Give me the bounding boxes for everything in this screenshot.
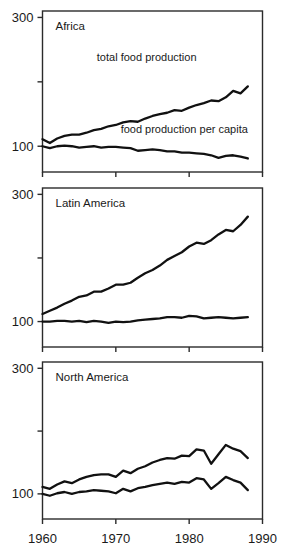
series-line-food-production-per-capita [43, 316, 248, 323]
x-tick-label-1970: 1970 [101, 531, 130, 546]
x-tick-label-1980: 1980 [175, 531, 204, 546]
panel-title: Africa [56, 20, 86, 32]
y-tick-label-300: 300 [12, 187, 34, 202]
panel-africa: 100300Africa [12, 10, 263, 177]
food-production-figure: 100300Africa100300Latin America100300Nor… [0, 0, 284, 552]
plot-frame [43, 362, 263, 519]
y-tick-label-100: 100 [12, 486, 34, 501]
series-line-total-food-production [43, 445, 248, 489]
x-axis-labels: 1960197019801990 [28, 531, 277, 546]
series-line-total-food-production [43, 217, 248, 314]
panel-title: Latin America [56, 197, 126, 209]
annotation-total-food-production: total food production [97, 51, 197, 63]
plot-frame [43, 188, 263, 347]
y-tick-label-300: 300 [12, 361, 34, 376]
series-line-food-production-per-capita [43, 477, 248, 496]
multi-panel-line-chart: 100300Africa100300Latin America100300Nor… [0, 0, 284, 552]
y-tick-label-100: 100 [12, 314, 34, 329]
x-tick-label-1990: 1990 [248, 531, 277, 546]
annotation-food-production-per-capita: food production per capita [121, 123, 249, 135]
y-tick-label-100: 100 [12, 139, 34, 154]
panel-north-america: 100300North America [12, 361, 263, 524]
panel-latin-america: 100300Latin America [12, 187, 263, 352]
x-tick-label-1960: 1960 [28, 531, 57, 546]
panel-title: North America [56, 371, 129, 383]
series-line-food-production-per-capita [43, 146, 248, 159]
y-tick-label-300: 300 [12, 10, 34, 25]
